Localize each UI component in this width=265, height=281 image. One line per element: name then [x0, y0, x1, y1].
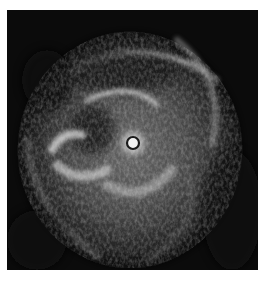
ivus-image [7, 10, 258, 270]
catheter-icon [127, 137, 139, 149]
ultrasound-scan [7, 10, 258, 270]
